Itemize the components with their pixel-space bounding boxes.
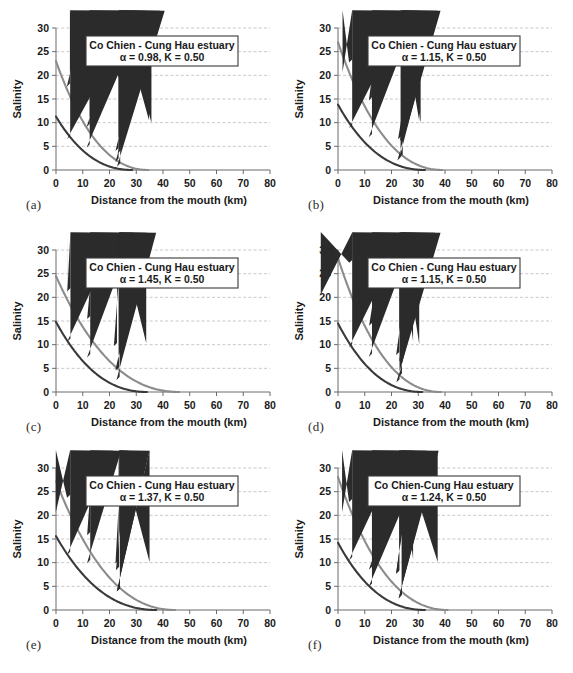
- y-axis-title: Salinity: [293, 301, 305, 341]
- x-axis-tick-label: 0: [335, 617, 341, 629]
- y-axis-tick-label: 0: [43, 164, 49, 176]
- y-axis-tick-label: 15: [319, 315, 331, 327]
- y-axis-title: Salinity: [293, 519, 305, 559]
- y-axis-title: Salinity: [293, 79, 305, 119]
- annotation-params: α = 1.45, K = 0.50: [120, 273, 205, 285]
- x-axis-tick-label: 60: [211, 177, 223, 189]
- x-axis-tick-label: 0: [53, 399, 59, 411]
- x-axis-tick-label: 70: [519, 399, 531, 411]
- x-axis-title: Distance from the mouth (km): [373, 634, 529, 646]
- annotation-box: Co Chien - Cung Hau estuaryα = 1.15, K =…: [368, 36, 520, 66]
- y-axis-tick-label: 30: [319, 22, 331, 34]
- y-axis-tick-label: 0: [43, 386, 49, 398]
- annotation-title: Co Chien - Cung Hau estuary: [89, 261, 234, 273]
- y-axis-tick-label: 20: [37, 509, 49, 521]
- y-axis-tick-label: 15: [37, 93, 49, 105]
- x-axis-tick-label: 80: [546, 399, 558, 411]
- x-axis-tick-label: 40: [439, 617, 451, 629]
- y-axis-tick-label: 30: [319, 462, 331, 474]
- annotation-box: Co Chien - Cung Hau estuaryα = 0.98, K =…: [86, 36, 238, 66]
- x-axis-tick-label: 60: [493, 399, 505, 411]
- annotation-params: α = 0.98, K = 0.50: [120, 51, 205, 63]
- y-axis-tick-label: 15: [319, 533, 331, 545]
- x-axis-tick-label: 10: [77, 617, 89, 629]
- x-axis-tick-label: 30: [130, 399, 142, 411]
- annotation-params: α = 1.15, K = 0.50: [402, 51, 487, 63]
- x-axis-tick-label: 50: [184, 177, 196, 189]
- x-axis-tick-label: 30: [130, 177, 142, 189]
- x-axis-tick-label: 70: [237, 399, 249, 411]
- x-axis-tick-label: 30: [412, 617, 424, 629]
- chart-canvas: 05101520253001020304050607080Distance fr…: [8, 450, 284, 668]
- x-axis-tick-label: 10: [359, 177, 371, 189]
- x-axis-tick-label: 10: [77, 399, 89, 411]
- x-axis-tick-label: 50: [184, 399, 196, 411]
- y-axis-tick-label: 25: [319, 45, 331, 57]
- x-axis-tick-label: 70: [519, 177, 531, 189]
- panel-letter-b: (b): [308, 197, 324, 213]
- figure-six-panel-salinity: 05101520253001020304050607080Distance fr…: [0, 0, 573, 673]
- x-axis-title: Distance from the mouth (km): [91, 194, 247, 206]
- x-axis-tick-label: 0: [53, 617, 59, 629]
- y-axis-title: Salinity: [11, 301, 23, 341]
- x-axis-tick-label: 30: [130, 617, 142, 629]
- x-axis-tick-label: 70: [237, 177, 249, 189]
- y-axis-tick-label: 5: [325, 140, 331, 152]
- y-axis-tick-label: 5: [325, 362, 331, 374]
- x-axis-tick-label: 20: [386, 399, 398, 411]
- x-axis-tick-label: 50: [466, 399, 478, 411]
- x-axis-tick-label: 40: [157, 399, 169, 411]
- x-axis-tick-label: 80: [546, 617, 558, 629]
- panel-letter-a: (a): [26, 197, 41, 213]
- chart-canvas: 05101520253001020304050607080Distance fr…: [8, 10, 284, 228]
- y-axis-tick-label: 10: [319, 116, 331, 128]
- panel-letter-f: (f): [308, 637, 322, 653]
- x-axis-tick-label: 10: [77, 177, 89, 189]
- annotation-title: Co Chien - Cung Hau estuary: [89, 39, 234, 51]
- x-axis-tick-label: 80: [264, 399, 276, 411]
- y-axis-tick-label: 15: [37, 315, 49, 327]
- annotation-title: Co Chien - Cung Hau estuary: [371, 261, 516, 273]
- y-axis-tick-label: 0: [325, 604, 331, 616]
- x-axis-tick-label: 60: [211, 399, 223, 411]
- y-axis-tick-label: 5: [43, 140, 49, 152]
- chart-panel-c: 05101520253001020304050607080Distance fr…: [8, 232, 284, 450]
- annotation-title: Co Chien - Cung Hau estuary: [89, 479, 234, 491]
- x-axis-tick-label: 0: [335, 399, 341, 411]
- y-axis-tick-label: 0: [325, 386, 331, 398]
- x-axis-tick-label: 10: [359, 399, 371, 411]
- x-axis-tick-label: 40: [157, 177, 169, 189]
- chart-canvas: 05101520253001020304050607080Distance fr…: [290, 232, 566, 450]
- y-axis-tick-label: 10: [319, 338, 331, 350]
- x-axis-tick-label: 0: [335, 177, 341, 189]
- x-axis-tick-label: 80: [546, 177, 558, 189]
- x-axis-tick-label: 80: [264, 617, 276, 629]
- panel-letter-c: (c): [26, 419, 41, 435]
- chart-panel-b: 05101520253001020304050607080Distance fr…: [290, 10, 566, 228]
- annotation-params: α = 1.24, K = 0.50: [402, 491, 487, 503]
- chart-canvas: 05101520253001020304050607080Distance fr…: [290, 450, 566, 668]
- annotation-box: Co Chien - Cung Hau estuaryα = 1.37, K =…: [86, 476, 238, 506]
- x-axis-tick-label: 50: [184, 617, 196, 629]
- annotation-box: Co Chien - Cung Hau estuaryα = 1.45, K =…: [86, 258, 238, 288]
- y-axis-tick-label: 25: [37, 485, 49, 497]
- x-axis-tick-label: 40: [157, 617, 169, 629]
- y-axis-tick-label: 5: [325, 580, 331, 592]
- y-axis-tick-label: 25: [319, 485, 331, 497]
- y-axis-tick-label: 20: [37, 291, 49, 303]
- y-axis-tick-label: 25: [37, 45, 49, 57]
- y-axis-tick-label: 5: [43, 362, 49, 374]
- x-axis-tick-label: 80: [264, 177, 276, 189]
- annotation-title: Co Chien - Cung Hau estuary: [371, 39, 516, 51]
- x-axis-tick-label: 30: [412, 399, 424, 411]
- annotation-box: Co Chien - Cung Hau estuaryα = 1.15, K =…: [368, 258, 520, 288]
- x-axis-tick-label: 30: [412, 177, 424, 189]
- x-axis-tick-label: 40: [439, 399, 451, 411]
- x-axis-tick-label: 50: [466, 617, 478, 629]
- x-axis-title: Distance from the mouth (km): [373, 194, 529, 206]
- chart-panel-d: 05101520253001020304050607080Distance fr…: [290, 232, 566, 450]
- y-axis-title: Salinity: [11, 519, 23, 559]
- y-axis-tick-label: 30: [37, 244, 49, 256]
- y-axis-tick-label: 15: [37, 533, 49, 545]
- annotation-params: α = 1.15, K = 0.50: [402, 273, 487, 285]
